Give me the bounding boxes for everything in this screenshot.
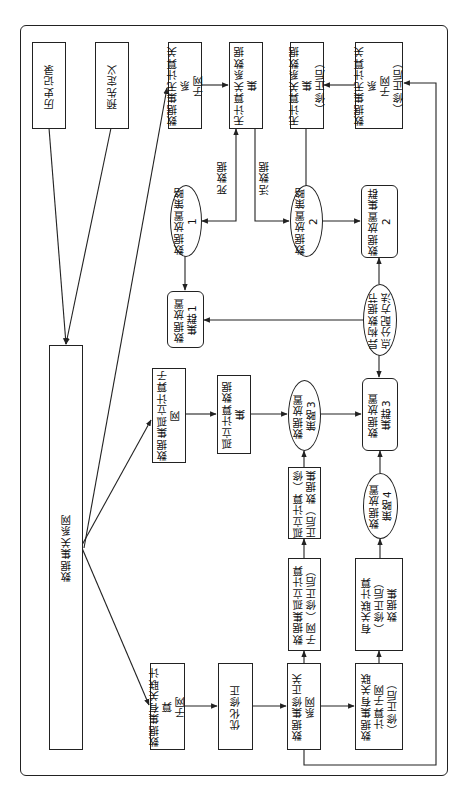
node-fixed-relation-net-label: 数据集修正关 系网 [291, 672, 317, 741]
node-isolated-subnet-label: 数据集孤立计算子网 [156, 369, 182, 462]
node-history-label: 历史记录 [43, 63, 56, 109]
node-isolated-subnet-fixed: 数据集孤立计算 子网（修正后） [288, 558, 321, 651]
node-hetero-alloc: 异构数据节 点分配方法 [363, 284, 397, 356]
node-cluster2-label: 数据放置集群2 [367, 186, 393, 257]
node-dataset-relation-net: 数据集关系网 [49, 345, 83, 750]
node-fixed-relation-net: 数据集修正关 系网 [287, 663, 321, 750]
node-strategy1-label: 数据放置策略1 [173, 186, 199, 256]
node-related-dataset-fixed: 有关联计算 （修正后） 数据集 [355, 558, 403, 651]
node-strategy3: 数据放置 策略3 [288, 380, 321, 451]
node-strategy3-label: 数据放置 策略3 [292, 393, 318, 439]
node-strategy4: 数据放置 策略4 [363, 473, 398, 539]
node-noncompute-dataset-fixed-label: 无计算关系数据集 （修正后） [288, 43, 327, 128]
node-cluster3: 数据放置 集群3 [362, 378, 398, 451]
node-cluster2: 数据放置集群2 [361, 185, 398, 258]
live-data-text: 活数据 [258, 160, 271, 195]
node-noncompute-subnet: 数据集无计算关系 子网 [168, 42, 202, 129]
node-isolated-dataset-fixed-label: 孤立计算（修 正后）数据集 [292, 469, 318, 538]
node-dataset-relation-net-label: 数据集关系网 [60, 513, 73, 582]
node-optimize-fix-label: 优化修正 [229, 684, 242, 730]
node-strategy2-label: 数据放置策略2 [294, 186, 320, 256]
node-isolated-dataset-label: 孤立计算数据集 [221, 376, 247, 453]
node-history: 历史记录 [32, 42, 66, 129]
node-strategy1: 数据放置策略1 [170, 185, 202, 257]
node-optimize-fix: 优化修正 [218, 663, 253, 750]
node-noncompute-dataset-label: 无计算关系数据集 [233, 43, 259, 128]
node-isolated-dataset-fixed: 孤立计算（修 正后）数据集 [288, 467, 321, 539]
node-noncompute-subnet-fixed-label: 数据集无计算关系 子网 （修正后） [353, 43, 405, 128]
node-related-subnet: 数据集有关联计算 子网 [150, 663, 185, 750]
node-predefined: 预先定义 [95, 42, 129, 129]
node-related-subnet-fixed: 数据集有关联 计算子网 （修正后） [355, 663, 403, 750]
node-related-dataset-fixed-label: 有关联计算 （修正后） 数据集 [360, 576, 399, 634]
node-noncompute-dataset: 无计算关系数据集 [229, 42, 263, 129]
node-cluster3-label: 数据放置 集群3 [367, 392, 393, 438]
node-isolated-dataset: 孤立计算数据集 [217, 375, 251, 454]
node-isolated-subnet-fixed-label: 数据集孤立计算 子网（修正后） [292, 564, 318, 645]
node-cluster1-label: 数据放置 集群1 [173, 297, 199, 343]
node-related-subnet-label: 数据集有关联计算 子网 [148, 664, 187, 749]
node-related-subnet-fixed-label: 数据集有关联 计算子网 （修正后） [360, 672, 399, 741]
edge-label-live-data: 活数据 [258, 160, 271, 199]
dead-data-text: 死数据 [216, 160, 229, 195]
node-cluster1: 数据放置 集群1 [167, 291, 204, 348]
node-strategy2: 数据放置策略2 [290, 185, 323, 257]
node-isolated-subnet: 数据集孤立计算子网 [152, 368, 186, 463]
node-noncompute-dataset-fixed: 无计算关系数据集 （修正后） [290, 42, 324, 129]
node-noncompute-subnet-label: 数据集无计算关系 子网 [166, 43, 205, 128]
node-predefined-label: 预先定义 [106, 63, 119, 109]
node-noncompute-subnet-fixed: 数据集无计算关系 子网 （修正后） [355, 42, 403, 129]
node-hetero-alloc-label: 异构数据节 点分配方法 [367, 291, 393, 349]
node-strategy4-label: 数据放置 策略4 [368, 483, 394, 529]
edge-label-dead-data: 死数据 [216, 160, 229, 199]
